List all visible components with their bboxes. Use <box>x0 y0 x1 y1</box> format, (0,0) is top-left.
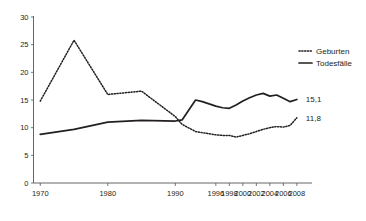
y-tick-label: 30 <box>20 13 28 22</box>
line-chart: 051015202530 197019801990199619982000200… <box>0 0 366 221</box>
y-tick-label: 10 <box>20 123 28 132</box>
end-labels: 11,815,1 <box>306 95 322 122</box>
y-tick-label: 5 <box>24 151 28 160</box>
x-tick-label: 2008 <box>289 189 306 198</box>
y-tick-label: 25 <box>20 40 28 49</box>
end-label-geburten: 11,8 <box>306 114 322 123</box>
legend-label: Geburten <box>316 47 349 56</box>
legend-label: Todesfälle <box>316 59 353 68</box>
y-tick-label: 0 <box>24 179 28 188</box>
x-axis: 1970198019901996199820002002200420062008 <box>32 183 312 198</box>
series-layer <box>40 40 297 137</box>
y-tick-label: 20 <box>20 68 28 77</box>
x-tick-label: 1980 <box>99 189 116 198</box>
y-axis: 051015202530 <box>20 13 33 188</box>
chart-canvas: 051015202530 197019801990199619982000200… <box>0 0 366 221</box>
chart-legend: GeburtenTodesfälle <box>299 47 353 68</box>
x-tick-label: 1990 <box>167 189 184 198</box>
series-line-todesfälle <box>40 93 297 134</box>
x-tick-label: 1970 <box>32 189 49 198</box>
series-line-geburten <box>40 40 297 137</box>
y-tick-label: 15 <box>20 96 28 105</box>
end-label-todesfälle: 15,1 <box>306 95 322 104</box>
